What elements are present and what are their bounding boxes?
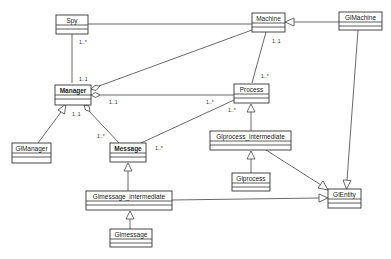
generalization-arrow-icon xyxy=(319,194,328,202)
uml-class-diagram: 1..* 1..1 1..1 1..* 1..1 1..* 1..1 1..* … xyxy=(0,0,391,259)
aggregation-diamond-icon xyxy=(91,86,100,91)
class-glmessage-intermediate[interactable]: Glmessage_intermediate xyxy=(86,191,172,210)
generalization-arrow-icon xyxy=(247,104,255,112)
class-name: Glprocess_intermediate xyxy=(216,133,285,141)
class-name: Manager xyxy=(60,87,87,95)
edge-glmachine-glentity xyxy=(347,30,358,180)
edge-machine-manager xyxy=(99,30,252,86)
generalization-arrow-icon xyxy=(318,181,328,190)
multiplicity-label: 1..1 xyxy=(72,111,81,117)
class-name: Process xyxy=(240,86,264,93)
class-glprocess[interactable]: Glprocess xyxy=(232,173,270,191)
edge-glmanager-manager xyxy=(38,112,61,143)
class-glmessage[interactable]: Glmessage xyxy=(110,229,152,247)
generalization-arrow-icon xyxy=(285,18,294,26)
class-name: Glmessage xyxy=(115,231,148,239)
class-machine[interactable]: Machine xyxy=(252,13,285,32)
class-process[interactable]: Process xyxy=(234,84,269,103)
class-name: Machine xyxy=(256,15,281,22)
multiplicity-label: 1..* xyxy=(228,107,236,113)
class-glmachine[interactable]: GlMachine xyxy=(339,12,382,30)
class-name: GlEntity xyxy=(333,191,357,199)
class-glmanager[interactable]: GlManager xyxy=(12,143,51,163)
multiplicity-label: 1..* xyxy=(155,145,163,151)
generalization-arrow-icon xyxy=(126,211,134,219)
multiplicity-label: 1..* xyxy=(79,39,87,45)
multiplicity-label: 1..1 xyxy=(109,99,118,105)
generalization-arrow-icon xyxy=(124,163,132,171)
class-name: Glprocess xyxy=(236,175,266,183)
edge-glprocessint-glentity xyxy=(266,150,321,185)
generalization-arrow-icon xyxy=(247,151,255,159)
class-name: Glmessage_intermediate xyxy=(93,193,166,201)
multiplicity-label: 1..* xyxy=(261,73,269,79)
class-name: GlMachine xyxy=(345,14,376,21)
edge-glmessageint-glentity xyxy=(172,198,319,200)
class-manager[interactable]: Manager xyxy=(55,85,91,105)
aggregation-diamond-icon xyxy=(84,105,90,112)
multiplicity-label: 1..* xyxy=(206,99,214,105)
aggregation-diamond-icon xyxy=(91,93,100,98)
class-name: Spy xyxy=(66,17,78,25)
multiplicity-label: 1..* xyxy=(97,133,105,139)
class-spy[interactable]: Spy xyxy=(56,15,88,34)
generalization-arrow-icon xyxy=(58,104,66,114)
class-message[interactable]: Message xyxy=(110,143,146,162)
multiplicity-label: 1..1 xyxy=(272,38,281,44)
class-glentity[interactable]: GlEntity xyxy=(328,189,361,208)
class-name: GlManager xyxy=(15,145,48,153)
class-name: Message xyxy=(114,145,142,153)
multiplicity-label: 1..1 xyxy=(79,76,88,82)
generalization-arrow-icon xyxy=(343,180,351,189)
class-glprocess-intermediate[interactable]: Glprocess_intermediate xyxy=(210,131,291,150)
